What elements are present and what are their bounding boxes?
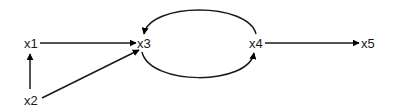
node-x5: x5 [361, 36, 375, 51]
causal-diagram: x1 x2 x3 x4 x5 [0, 0, 393, 112]
edge-x3-to-x4 [142, 52, 254, 78]
node-x1: x1 [24, 36, 38, 51]
node-x4: x4 [249, 36, 263, 51]
edge-x2-to-x3 [42, 50, 139, 98]
node-x2: x2 [24, 93, 38, 108]
node-x3: x3 [137, 36, 151, 51]
edge-x4-to-x3 [144, 10, 256, 34]
